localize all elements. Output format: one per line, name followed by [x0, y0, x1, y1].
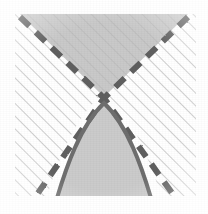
- hyperbola-diagram: [0, 0, 208, 214]
- figure-container: Hyperbola with asymptotes and shaded con…: [0, 0, 208, 214]
